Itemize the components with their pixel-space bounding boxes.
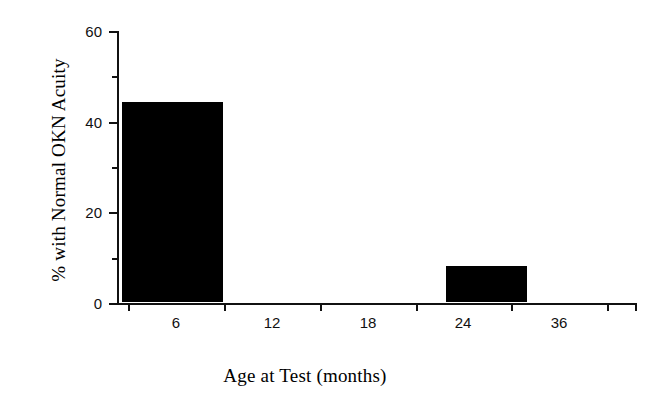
y-tick-20 xyxy=(109,212,117,214)
y-tick-label-60: 60 xyxy=(62,24,102,39)
x-tick-boundary-7 xyxy=(635,305,637,311)
plot-area: 0 20 40 60 6 12 18 24 36 xyxy=(117,31,637,304)
x-tick-boundary-6 xyxy=(607,305,609,311)
y-axis-line xyxy=(117,31,119,305)
y-axis-title: % with Normal OKN Acuity xyxy=(44,20,74,320)
y-tick-label-20: 20 xyxy=(62,205,102,220)
x-tick-boundary-1 xyxy=(128,305,130,311)
y-tick-40 xyxy=(109,122,117,124)
x-axis-line xyxy=(117,303,637,305)
x-tick-boundary-2 xyxy=(224,305,226,311)
x-tick-boundary-4 xyxy=(416,305,418,311)
x-tick-label-18: 18 xyxy=(338,315,398,330)
x-tick-label-24: 24 xyxy=(433,315,493,330)
y-tick-label-40: 40 xyxy=(62,115,102,130)
bar-6 xyxy=(122,102,223,302)
y-minor-tick-10 xyxy=(112,258,117,260)
x-axis-title: Age at Test (months) xyxy=(117,365,493,387)
y-tick-label-0: 0 xyxy=(62,296,102,311)
y-minor-tick-50 xyxy=(112,76,117,78)
y-minor-tick-30 xyxy=(112,167,117,169)
y-tick-0 xyxy=(109,303,117,305)
y-tick-60 xyxy=(109,31,117,33)
bar-24 xyxy=(446,266,527,302)
x-tick-label-6: 6 xyxy=(146,315,206,330)
x-tick-boundary-3 xyxy=(320,305,322,311)
bar-chart-figure: % with Normal OKN Acuity 0 20 40 60 6 12… xyxy=(0,0,657,411)
x-tick-label-36: 36 xyxy=(529,315,589,330)
x-tick-label-12: 12 xyxy=(242,315,302,330)
x-tick-boundary-5 xyxy=(511,305,513,311)
